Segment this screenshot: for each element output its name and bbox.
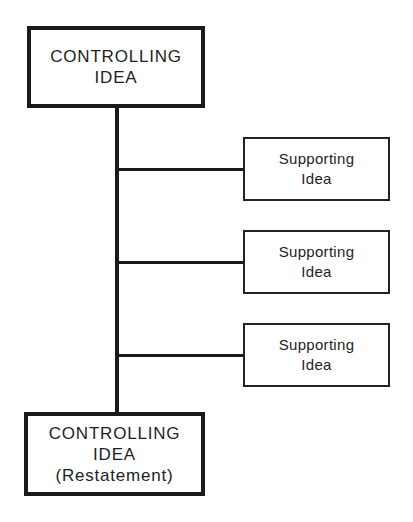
- controlling-idea-line2: IDEA: [95, 67, 138, 88]
- supporting-idea-2-line2: Idea: [301, 262, 331, 282]
- branch-line-2: [117, 261, 244, 264]
- supporting-idea-box-2: Supporting Idea: [243, 230, 390, 294]
- restatement-line2: IDEA: [93, 444, 136, 465]
- supporting-idea-box-1: Supporting Idea: [243, 137, 390, 201]
- restatement-line1: CONTROLLING: [49, 423, 181, 444]
- supporting-idea-box-3: Supporting Idea: [243, 323, 390, 387]
- controlling-idea-line1: CONTROLLING: [50, 46, 182, 67]
- branch-line-3: [117, 354, 244, 357]
- spine-line: [115, 105, 119, 415]
- supporting-idea-1-line1: Supporting: [279, 149, 355, 169]
- supporting-idea-2-line1: Supporting: [279, 242, 355, 262]
- restatement-line3: (Restatement): [55, 465, 173, 486]
- branch-line-1: [117, 168, 244, 171]
- supporting-idea-1-line2: Idea: [301, 169, 331, 189]
- controlling-idea-restatement-box: CONTROLLING IDEA (Restatement): [24, 412, 205, 496]
- supporting-idea-3-line1: Supporting: [279, 335, 355, 355]
- controlling-idea-box: CONTROLLING IDEA: [27, 26, 205, 108]
- supporting-idea-3-line2: Idea: [301, 355, 331, 375]
